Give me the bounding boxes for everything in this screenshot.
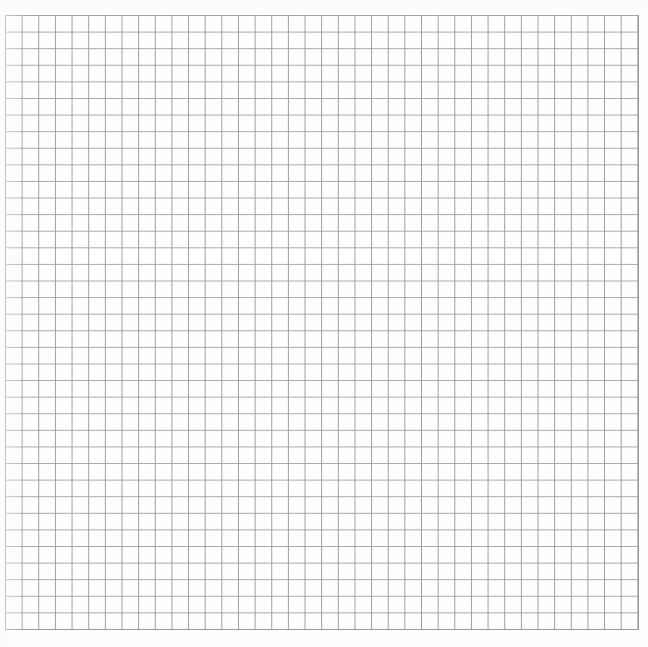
page-canvas — [0, 0, 648, 647]
square-grid — [5, 15, 638, 629]
